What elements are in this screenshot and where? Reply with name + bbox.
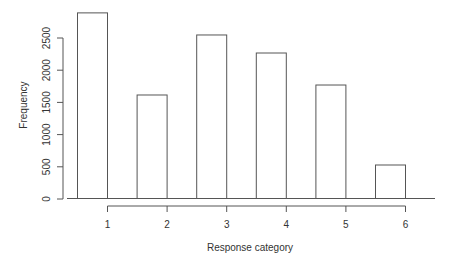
- y-tick-label: 1000: [41, 123, 52, 146]
- bar-1: [78, 13, 108, 199]
- y-axis-label: Frequency: [18, 81, 29, 128]
- bar-4: [256, 53, 286, 198]
- x-tick-label: 5: [343, 219, 349, 230]
- bar-6: [376, 165, 406, 199]
- bar-chart: 05001000150020002500123456Response categ…: [0, 0, 453, 269]
- x-tick-label: 2: [164, 219, 170, 230]
- y-tick-label: 0: [41, 196, 52, 202]
- x-tick-label: 6: [403, 219, 409, 230]
- y-tick-label: 500: [41, 158, 52, 175]
- x-tick-label: 4: [284, 219, 290, 230]
- x-tick-label: 3: [224, 219, 230, 230]
- y-tick-label: 2000: [41, 59, 52, 82]
- x-axis-label: Response category: [207, 242, 293, 253]
- y-tick-label: 1500: [41, 91, 52, 114]
- bar-3: [197, 35, 227, 199]
- bar-5: [316, 85, 346, 198]
- x-tick-label: 1: [105, 219, 111, 230]
- bar-2: [137, 95, 167, 199]
- y-tick-label: 2500: [41, 26, 52, 49]
